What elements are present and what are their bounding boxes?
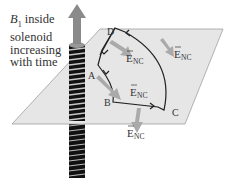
point-b-label: B xyxy=(104,97,111,108)
solenoid-upper xyxy=(69,42,85,121)
svg-text:E: E xyxy=(127,127,134,139)
point-c-label: C xyxy=(172,107,179,118)
svg-text:E: E xyxy=(174,48,181,60)
solenoid-lower xyxy=(69,122,85,178)
svg-text:E: E xyxy=(126,52,133,64)
svg-text:NC: NC xyxy=(133,57,143,66)
b-symbol: B xyxy=(10,12,18,26)
solenoid-caption: B1 inside solenoid increasing with time xyxy=(10,13,61,69)
svg-text:NC: NC xyxy=(137,91,147,100)
point-d-label: D xyxy=(107,26,114,37)
point-a-label: A xyxy=(88,70,96,81)
magnetic-field-arrow xyxy=(68,4,86,44)
svg-text:NC: NC xyxy=(134,132,144,141)
svg-text:E: E xyxy=(130,86,137,98)
svg-text:NC: NC xyxy=(181,53,191,62)
